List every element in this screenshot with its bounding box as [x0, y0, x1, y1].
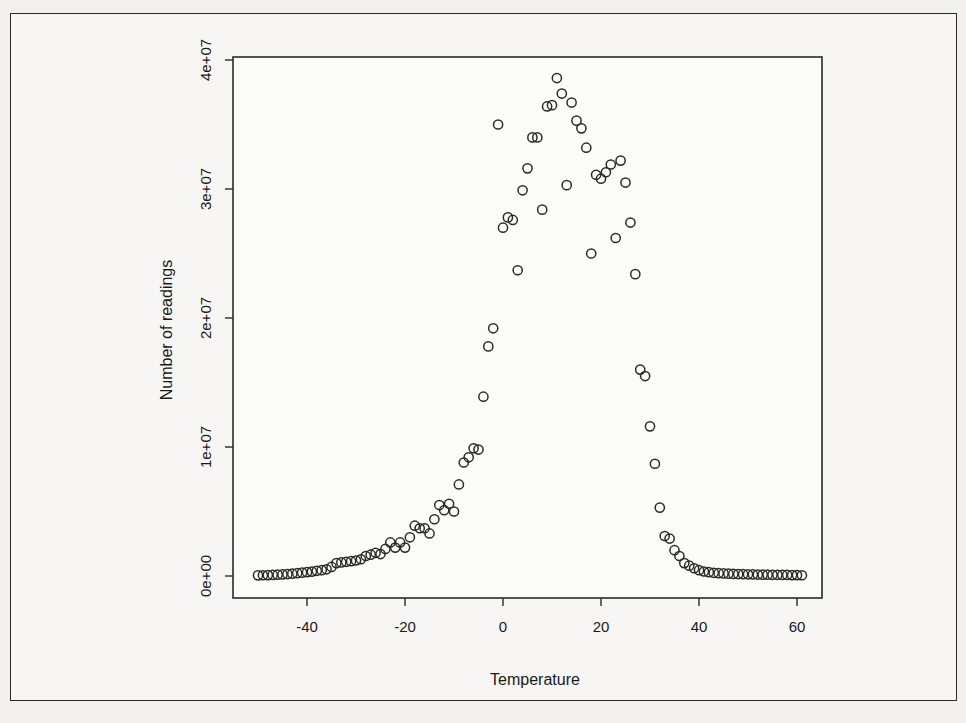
- scatter-plot: 0e+001e+072e+073e+074e+07 -40-200204060 …: [0, 0, 966, 723]
- y-axis: 0e+001e+072e+073e+074e+07: [197, 39, 233, 597]
- x-axis: -40-200204060: [296, 598, 805, 635]
- x-axis-title: Temperature: [490, 671, 580, 688]
- x-tick-label: -40: [296, 618, 318, 635]
- x-tick-label: 60: [789, 618, 806, 635]
- y-tick-label: 2e+07: [197, 297, 214, 339]
- x-tick-label: -20: [394, 618, 416, 635]
- y-tick-label: 1e+07: [197, 426, 214, 468]
- x-tick-label: 20: [593, 618, 610, 635]
- y-axis-title: Number of readings: [158, 260, 175, 401]
- x-tick-label: 0: [499, 618, 507, 635]
- x-tick-label: 40: [691, 618, 708, 635]
- y-tick-label: 3e+07: [197, 168, 214, 210]
- y-tick-label: 0e+00: [197, 555, 214, 597]
- y-tick-label: 4e+07: [197, 39, 214, 81]
